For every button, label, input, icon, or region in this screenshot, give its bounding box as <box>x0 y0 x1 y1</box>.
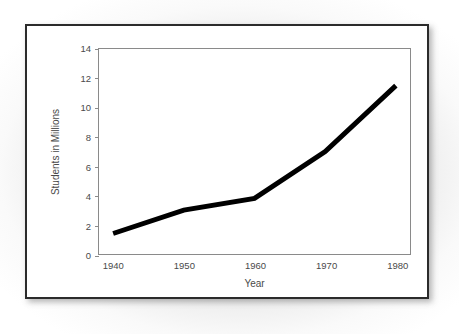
y-axis-tick-label: 12 <box>80 74 95 84</box>
figure-page: Students in Millions 0246810121419401950… <box>0 0 459 334</box>
y-axis-tick-label: 8 <box>86 133 95 143</box>
x-axis-tick-label: 1970 <box>316 261 337 271</box>
y-axis-tick-mark <box>95 108 99 109</box>
y-axis-tick-mark <box>95 49 99 50</box>
y-axis-tick-mark <box>95 256 99 257</box>
y-axis-tick-mark <box>95 167 99 168</box>
y-axis-tick-label: 0 <box>86 251 95 261</box>
y-axis-tick-mark <box>95 78 99 79</box>
y-axis-tick-label: 10 <box>80 103 95 113</box>
y-axis-tick-mark <box>95 137 99 138</box>
x-axis-tick-label: 1950 <box>174 261 195 271</box>
x-axis-title-label: Year <box>244 278 264 289</box>
series-line <box>99 49 410 254</box>
y-axis-tick-label: 2 <box>86 222 95 232</box>
x-axis-tick-label: 1960 <box>245 261 266 271</box>
x-axis-title: Year <box>98 279 411 289</box>
figure-card: Students in Millions 0246810121419401950… <box>25 24 429 299</box>
y-axis-tick-label: 4 <box>86 192 95 202</box>
series-polyline <box>113 86 396 234</box>
y-axis-tick-label: 14 <box>80 44 95 54</box>
y-axis-title: Students in Millions <box>49 48 63 255</box>
plot-area: 0246810121419401950196019701980 <box>98 48 411 255</box>
y-axis-title-label: Students in Millions <box>51 108 61 194</box>
x-axis-tick-label: 1940 <box>103 261 124 271</box>
line-chart: Students in Millions 0246810121419401950… <box>27 26 427 297</box>
y-axis-tick-mark <box>95 226 99 227</box>
y-axis-tick-label: 6 <box>86 163 95 173</box>
y-axis-tick-mark <box>95 196 99 197</box>
x-axis-tick-label: 1980 <box>387 261 408 271</box>
